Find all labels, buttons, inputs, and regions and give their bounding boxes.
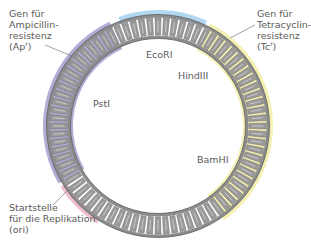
psti-site-label: PstI: [93, 98, 110, 109]
abbrev-text: (Ap: [9, 41, 25, 52]
label-line: Tetracyclin-: [257, 19, 311, 30]
ecori-site-label: EcoRI: [146, 49, 172, 60]
label-line: Gen für: [9, 8, 59, 19]
abbrev-text: (Tc: [257, 41, 270, 52]
abbrev-close: ): [28, 41, 32, 52]
plasmid-diagram: Gen für Ampicillin- resistenz (Apr) Gen …: [0, 0, 311, 245]
tetracyclin-gene-label: Gen für Tetracyclin- resistenz (Tcr): [257, 8, 311, 52]
label-line: für die Replikation: [9, 213, 96, 224]
hindiii-site-label: HindIII: [178, 70, 208, 81]
ampicillin-gene-label: Gen für Ampicillin- resistenz (Apr): [9, 8, 59, 52]
inner-strand: [69, 37, 247, 215]
label-abbrev: (Apr): [9, 41, 59, 52]
ori-label: Startstelle für die Replikation (ori): [9, 202, 96, 235]
label-abbrev: (Tcr): [257, 41, 311, 52]
label-line: resistenz: [9, 30, 59, 41]
label-line: Startstelle: [9, 202, 96, 213]
label-line: Ampicillin-: [9, 19, 59, 30]
label-line: Gen für: [257, 8, 311, 19]
tetracyclin-leader-line: [230, 25, 255, 38]
abbrev-close: ): [273, 41, 277, 52]
label-line: resistenz: [257, 30, 311, 41]
label-line: (ori): [9, 224, 96, 235]
bamhi-site-label: BamHI: [197, 154, 229, 165]
